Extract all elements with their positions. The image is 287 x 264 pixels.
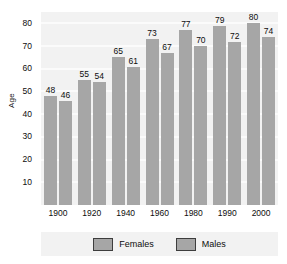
bar-value-label: 67 — [162, 43, 171, 52]
bar-group: 8074 — [244, 12, 278, 205]
bar-slot: 61 — [127, 12, 140, 205]
legend-label: Females — [119, 239, 154, 249]
bar[interactable] — [194, 46, 207, 205]
bar[interactable] — [228, 42, 241, 205]
bar[interactable] — [59, 101, 72, 205]
y-axis-tick: 60 — [23, 64, 32, 73]
y-axis-tick: 50 — [23, 87, 32, 96]
bar[interactable] — [44, 96, 57, 205]
bar-value-label: 61 — [128, 57, 137, 66]
bar-group: 5554 — [75, 12, 109, 205]
bar-slot: 74 — [262, 12, 275, 205]
bar-slot: 73 — [146, 12, 159, 205]
bar-slot: 46 — [59, 12, 72, 205]
bar-value-label: 46 — [61, 91, 70, 100]
plot-area: 4846555465617367777079728074 — [41, 12, 278, 205]
legend-label: Males — [202, 239, 226, 249]
bar-value-label: 54 — [95, 72, 104, 81]
bar-slot: 54 — [93, 12, 106, 205]
bar-group: 7770 — [176, 12, 210, 205]
x-axis-tick-labels: 1900192019401960198019902000 — [41, 207, 278, 221]
bar-slot: 72 — [228, 12, 241, 205]
bar-slot: 70 — [194, 12, 207, 205]
x-axis-tick: 2000 — [244, 207, 278, 221]
y-axis-tick: 30 — [23, 132, 32, 141]
bar[interactable] — [127, 67, 140, 206]
x-axis-tick: 1990 — [210, 207, 244, 221]
bar-value-label: 74 — [264, 27, 273, 36]
bar-value-label: 48 — [46, 86, 55, 95]
bar[interactable] — [93, 82, 106, 205]
bar[interactable] — [112, 57, 125, 205]
x-axis-tick: 1920 — [75, 207, 109, 221]
bar-slot: 77 — [179, 12, 192, 205]
bar-value-label: 80 — [249, 13, 258, 22]
bar-slot: 79 — [213, 12, 226, 205]
bar-group: 7367 — [143, 12, 177, 205]
x-axis-tick: 1960 — [143, 207, 177, 221]
x-axis-tick: 1940 — [109, 207, 143, 221]
y-axis-tick: 10 — [23, 178, 32, 187]
bar-groups: 4846555465617367777079728074 — [41, 12, 278, 205]
bar-chart: Age 1020304050607080 4846555465617367777… — [0, 0, 287, 264]
y-axis-tick: 40 — [23, 110, 32, 119]
bar-value-label: 65 — [113, 47, 122, 56]
chart-legend: FemalesMales — [41, 232, 278, 256]
bar[interactable] — [262, 37, 275, 205]
bar-slot: 65 — [112, 12, 125, 205]
bar[interactable] — [146, 39, 159, 205]
bar[interactable] — [78, 80, 91, 205]
bar[interactable] — [247, 23, 260, 205]
y-axis-tick: 20 — [23, 155, 32, 164]
bar-value-label: 72 — [230, 32, 239, 41]
x-axis-tick: 1980 — [176, 207, 210, 221]
bar-slot: 55 — [78, 12, 91, 205]
bar-value-label: 73 — [147, 29, 156, 38]
bar[interactable] — [213, 26, 226, 205]
legend-swatch-icon — [93, 238, 113, 251]
x-axis-tick: 1900 — [41, 207, 75, 221]
bar-group: 7972 — [210, 12, 244, 205]
bar-group: 4846 — [41, 12, 75, 205]
bar-value-label: 79 — [215, 16, 224, 25]
bar-slot: 48 — [44, 12, 57, 205]
legend-swatch-icon — [176, 238, 196, 251]
y-axis-tick: 70 — [23, 42, 32, 51]
bar-value-label: 77 — [181, 20, 190, 29]
bar-value-label: 55 — [80, 70, 89, 79]
legend-item-females[interactable]: Females — [93, 238, 154, 251]
bar-value-label: 70 — [196, 36, 205, 45]
y-axis-tick: 80 — [23, 19, 32, 28]
bar[interactable] — [161, 53, 174, 205]
bar-slot: 67 — [161, 12, 174, 205]
legend-item-males[interactable]: Males — [176, 238, 226, 251]
y-axis-tick-labels: 1020304050607080 — [0, 0, 40, 264]
bar-slot: 80 — [247, 12, 260, 205]
bar-group: 6561 — [109, 12, 143, 205]
bar[interactable] — [179, 30, 192, 205]
